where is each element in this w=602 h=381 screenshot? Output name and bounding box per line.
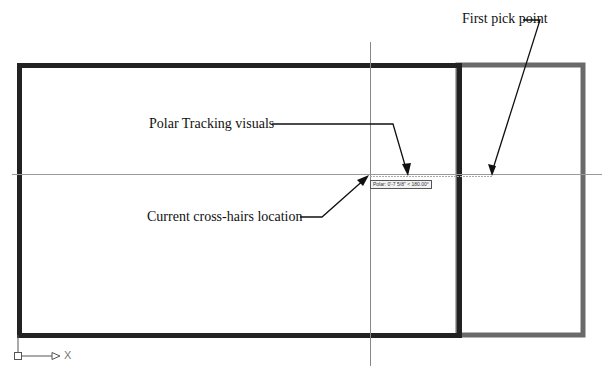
- leader-polar-tracking: [272, 124, 407, 172]
- label-crosshairs: Current cross-hairs location: [147, 209, 303, 225]
- polar-tooltip: Polar: 0'-7 5/8" < 180.00°: [370, 180, 432, 189]
- ucs-x-label: X: [64, 349, 71, 361]
- ucs-x-arrow-icon: [52, 353, 60, 360]
- label-first-pick-point: First pick point: [462, 11, 548, 27]
- drawing-canvas[interactable]: [0, 0, 602, 381]
- ucs-origin-icon: [15, 353, 22, 360]
- label-polar-tracking: Polar Tracking visuals: [149, 116, 274, 132]
- main-rectangle: [20, 66, 460, 336]
- leader-first-pick: [492, 20, 540, 172]
- gray-rectangle: [458, 65, 583, 335]
- leader-crosshairs: [300, 178, 366, 217]
